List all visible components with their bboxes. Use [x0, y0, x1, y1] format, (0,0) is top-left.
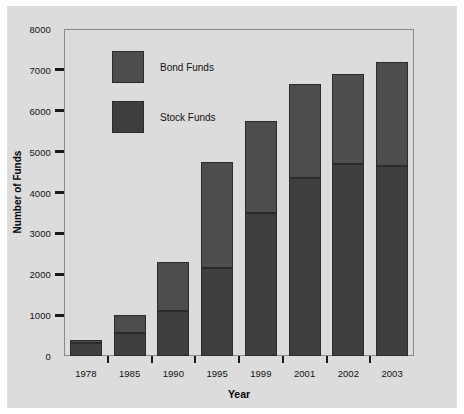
bar-stack — [245, 121, 277, 356]
y-axis-tick — [55, 150, 64, 153]
x-axis-tick — [238, 356, 240, 363]
bar-stack — [114, 315, 146, 356]
y-axis-tick-label: 5000 — [29, 146, 51, 157]
bar-segment-bond-funds — [289, 84, 321, 178]
plot-area: 010002000300040005000600070008000 197819… — [64, 29, 414, 356]
x-axis-tick-label: 2001 — [294, 368, 315, 379]
y-axis-tick-label: 3000 — [29, 228, 51, 239]
bar-segment-stock-funds — [201, 268, 233, 356]
x-axis-title: Year — [228, 388, 250, 400]
bar-stack — [332, 74, 364, 356]
x-axis-tick-label: 1995 — [207, 368, 228, 379]
y-axis-tick — [55, 232, 64, 235]
bar-segment-bond-funds — [332, 74, 364, 164]
bar-segment-bond-funds — [376, 62, 408, 166]
y-axis-tick — [55, 273, 64, 276]
legend-swatch — [112, 51, 144, 83]
x-axis-tick-label: 1985 — [119, 368, 140, 379]
bar-stack — [201, 162, 233, 356]
bar-segment-bond-funds — [70, 340, 102, 343]
x-axis-tick — [282, 356, 284, 363]
bar-segment-stock-funds — [289, 178, 321, 356]
legend-swatch — [112, 101, 144, 133]
legend-label: Stock Funds — [160, 112, 216, 123]
bar-stack — [70, 340, 102, 356]
bar-segment-stock-funds — [376, 166, 408, 356]
y-axis-tick-label: 8000 — [29, 24, 51, 35]
y-axis-tick-label: 2000 — [29, 269, 51, 280]
x-axis-tick — [107, 356, 109, 363]
y-axis-tick — [55, 314, 64, 317]
bar-stack — [157, 262, 189, 356]
y-axis-tick — [55, 68, 64, 71]
x-axis-tick-label: 1990 — [163, 368, 184, 379]
bar-segment-stock-funds — [114, 333, 146, 356]
bar-segment-bond-funds — [201, 162, 233, 268]
x-axis-tick — [194, 356, 196, 363]
x-axis-tick — [151, 356, 153, 363]
y-axis-tick-label: 1000 — [29, 310, 51, 321]
y-axis-tick — [55, 191, 64, 194]
chart-figure: Number of Funds 010002000300040005000600… — [7, 6, 457, 408]
bar-segment-bond-funds — [157, 262, 189, 311]
y-axis-tick — [55, 109, 64, 112]
bar-segment-stock-funds — [70, 343, 102, 356]
y-axis-tick-label: 4000 — [29, 187, 51, 198]
x-axis-tick — [369, 356, 371, 363]
legend-label: Bond Funds — [160, 62, 214, 73]
x-axis-tick-label: 1978 — [75, 368, 96, 379]
bar-segment-bond-funds — [114, 315, 146, 333]
y-axis-tick-label: 0 — [46, 351, 51, 362]
bar-segment-stock-funds — [157, 311, 189, 356]
x-axis-tick-label: 2003 — [382, 368, 403, 379]
x-axis-tick-label: 2002 — [338, 368, 359, 379]
bar-segment-stock-funds — [332, 164, 364, 356]
bar-segment-bond-funds — [245, 121, 277, 213]
y-axis-tick-label: 6000 — [29, 105, 51, 116]
x-axis-tick-label: 1999 — [250, 368, 271, 379]
x-axis-tick — [326, 356, 328, 363]
bar-segment-stock-funds — [245, 213, 277, 356]
bar-stack — [376, 62, 408, 356]
bar-stack — [289, 84, 321, 356]
y-axis-title: Number of Funds — [12, 151, 23, 234]
y-axis-tick-label: 7000 — [29, 64, 51, 75]
